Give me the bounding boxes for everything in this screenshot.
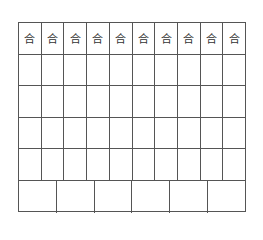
- grid-cell: [155, 55, 178, 86]
- grid-cell: [42, 86, 65, 117]
- grid-cell: [155, 86, 178, 117]
- empty-row: [19, 118, 245, 150]
- grid-cell: [57, 181, 95, 213]
- grid-cell: 合: [87, 23, 110, 54]
- grid-cell: [223, 118, 245, 149]
- grid-cell: [223, 86, 245, 117]
- grid-cell: [201, 86, 224, 117]
- grid-cell: 合: [110, 23, 133, 54]
- empty-row: [19, 86, 245, 118]
- grid-cell: [170, 181, 208, 213]
- grid-cell: [19, 149, 42, 180]
- bottom-row: [19, 181, 245, 213]
- grid-cell: [133, 86, 156, 117]
- grid-cell: [110, 86, 133, 117]
- grid-cell: [110, 118, 133, 149]
- grid-cell: 合: [64, 23, 87, 54]
- grid-cell: [64, 55, 87, 86]
- header-row: 合 合 合 合 合 合 合 合 合 合: [19, 23, 245, 55]
- grid-cell: [95, 181, 133, 213]
- grid-cell: [42, 149, 65, 180]
- grid-cell: [133, 149, 156, 180]
- grid-cell: [64, 118, 87, 149]
- character-grid: 合 合 合 合 合 合 合 合 合 合: [18, 22, 246, 212]
- grid-cell: [155, 118, 178, 149]
- grid-cell: [19, 55, 42, 86]
- grid-cell: 合: [201, 23, 224, 54]
- grid-cell: [178, 86, 201, 117]
- grid-cell: [178, 118, 201, 149]
- grid-cell: 合: [155, 23, 178, 54]
- grid-cell: [133, 118, 156, 149]
- grid-cell: 合: [19, 23, 42, 54]
- grid-cell: [201, 55, 224, 86]
- grid-cell: 合: [42, 23, 65, 54]
- grid-cell: [64, 149, 87, 180]
- grid-cell: [208, 181, 245, 213]
- grid-cell: [42, 55, 65, 86]
- grid-cell: 合: [178, 23, 201, 54]
- grid-cell: [19, 118, 42, 149]
- empty-row: [19, 149, 245, 181]
- grid-cell: [132, 181, 170, 213]
- empty-row: [19, 55, 245, 87]
- grid-cell: [87, 55, 110, 86]
- grid-cell: [178, 149, 201, 180]
- grid-cell: [87, 118, 110, 149]
- grid-cell: [155, 149, 178, 180]
- grid-cell: [178, 55, 201, 86]
- grid-cell: [87, 149, 110, 180]
- grid-cell: 合: [223, 23, 245, 54]
- grid-cell: [87, 86, 110, 117]
- grid-cell: [19, 181, 57, 213]
- grid-cell: [110, 149, 133, 180]
- grid-cell: [19, 86, 42, 117]
- grid-cell: 合: [133, 23, 156, 54]
- grid-cell: [223, 149, 245, 180]
- grid-cell: [42, 118, 65, 149]
- grid-cell: [201, 149, 224, 180]
- grid-cell: [110, 55, 133, 86]
- grid-cell: [201, 118, 224, 149]
- grid-cell: [133, 55, 156, 86]
- grid-cell: [64, 86, 87, 117]
- grid-cell: [223, 55, 245, 86]
